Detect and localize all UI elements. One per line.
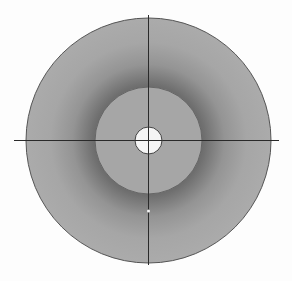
diagram-canvas: [0, 0, 292, 281]
target-diagram: [0, 0, 292, 281]
marker-dot: [147, 210, 150, 213]
